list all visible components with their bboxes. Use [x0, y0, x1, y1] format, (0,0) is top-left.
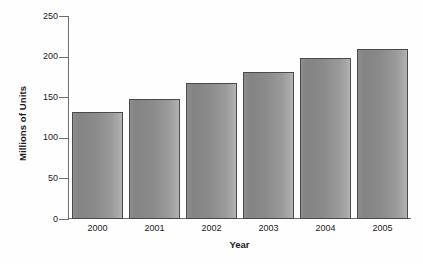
bar-slot	[297, 16, 354, 219]
plot-area	[69, 16, 411, 219]
y-axis-tick-mark	[59, 219, 69, 220]
y-axis-tick-label: 250	[30, 12, 58, 21]
bar[interactable]	[243, 72, 294, 219]
y-axis-tick-label: 150	[30, 93, 58, 102]
y-axis-tick-mark	[59, 178, 69, 179]
y-axis-tick-label: 200	[30, 52, 58, 61]
bar[interactable]	[72, 112, 123, 219]
bar-slot	[240, 16, 297, 219]
bar[interactable]	[357, 49, 408, 219]
bar-slot	[69, 16, 126, 219]
y-axis-tick-mark	[59, 138, 69, 139]
y-axis-tick-label: 50	[30, 174, 58, 183]
x-axis-title: Year	[68, 239, 411, 250]
bar-slot	[126, 16, 183, 219]
x-axis-tick-label: 2001	[126, 223, 183, 234]
y-axis-tick-mark	[59, 57, 69, 58]
x-axis-tick-label: 2003	[240, 223, 297, 234]
bar-slot	[354, 16, 411, 219]
bar[interactable]	[129, 99, 180, 219]
x-axis-tick-label: 2005	[354, 223, 411, 234]
y-axis-tick-label: 100	[30, 133, 58, 142]
bar-slot	[183, 16, 240, 219]
y-axis-tick-labels: 050100150200250	[30, 0, 58, 264]
y-axis-tick-mark	[59, 16, 69, 17]
y-axis-tick-mark	[59, 97, 69, 98]
x-axis-tick-label: 2000	[69, 223, 126, 234]
x-axis-tick-label: 2004	[297, 223, 354, 234]
y-axis-tick-label: 0	[30, 215, 58, 224]
y-axis-title-label: Millions of Units	[18, 85, 29, 160]
bar[interactable]	[300, 58, 351, 219]
bar[interactable]	[186, 83, 237, 219]
x-axis-tick-label: 2002	[183, 223, 240, 234]
bar-chart: Millions of Units 050100150200250 Year 2…	[0, 0, 423, 264]
